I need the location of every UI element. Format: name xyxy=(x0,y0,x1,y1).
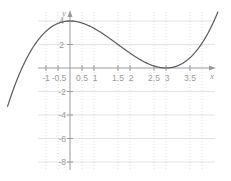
ytick-label-neg4: -4 xyxy=(58,110,66,120)
xtick-label-1-5: 1.5 xyxy=(112,73,124,83)
xtick-label-2-5: 2.5 xyxy=(148,73,160,83)
xtick-label-3: 3 xyxy=(165,73,170,83)
xtick-label-2: 2 xyxy=(129,73,134,83)
plot-background xyxy=(0,0,231,181)
xtick-label-neg1: -1 xyxy=(42,73,50,83)
xtick-label-3-5: 3.5 xyxy=(184,73,196,83)
chart-figure: -1 -0.5 0.5 1 1.5 2 2.5 3 3.5 4 2 -2 -4 … xyxy=(0,0,231,181)
xtick-label-neg0-5: -0.5 xyxy=(52,73,67,83)
ytick-label-neg8: -8 xyxy=(58,157,66,167)
cubic-function-plot: -1 -0.5 0.5 1 1.5 2 2.5 3 3.5 4 2 -2 -4 … xyxy=(0,0,231,181)
xtick-label-1: 1 xyxy=(93,73,98,83)
xtick-label-0-5: 0.5 xyxy=(76,73,88,83)
ytick-label-neg6: -6 xyxy=(58,134,66,144)
x-axis-label: x xyxy=(209,71,214,81)
y-axis-label: y xyxy=(61,8,66,18)
ytick-label-2: 2 xyxy=(59,40,64,50)
ytick-label-neg2: -2 xyxy=(58,87,66,97)
